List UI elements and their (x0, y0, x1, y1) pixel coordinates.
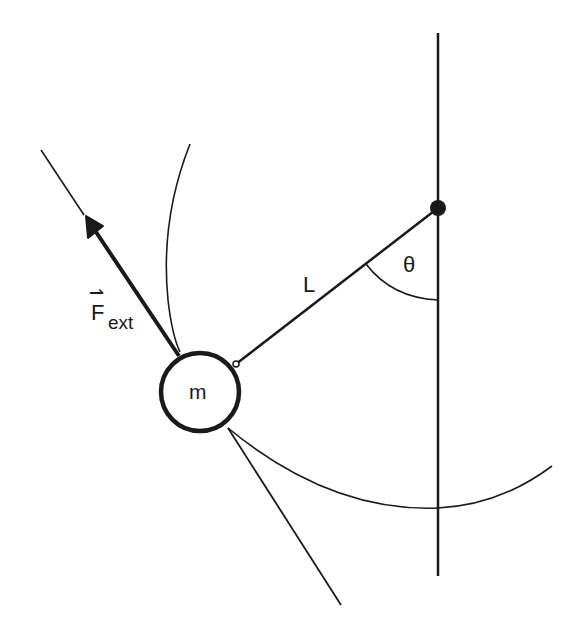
force-label: F (91, 302, 104, 324)
mass-label: m (189, 381, 207, 402)
tangent-line-upper (41, 150, 84, 215)
angle-arc (366, 264, 438, 300)
length-label: L (303, 274, 315, 296)
pivot-point (430, 200, 446, 216)
pendulum-string (236, 208, 438, 364)
pendulum-diagram: L θ m ⇀ F ext (0, 0, 586, 643)
force-arrow-head (86, 216, 103, 238)
path-arc (166, 144, 190, 352)
force-label-subscript: ext (108, 313, 133, 332)
string-attach-point (233, 361, 239, 367)
angle-label: θ (403, 254, 415, 276)
swing-arc (228, 428, 552, 508)
diagram-canvas (0, 0, 586, 643)
tangent-line-lower (228, 428, 341, 605)
